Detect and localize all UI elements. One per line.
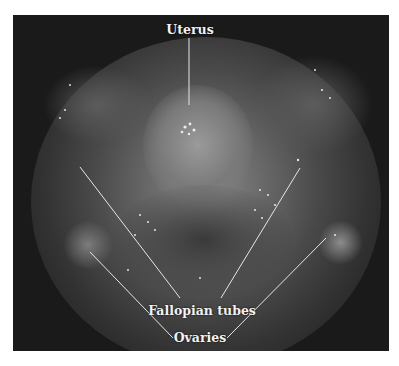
specular-highlights: [59, 69, 336, 279]
fallopian-left-leader-line: [80, 167, 180, 298]
fallopian-right-leader-line: [221, 168, 300, 298]
ovary-right-leader-line: [227, 238, 326, 338]
fallopian-tubes-label: Fallopian tubes: [148, 303, 256, 318]
ovaries-label: Ovaries: [174, 330, 227, 345]
uterus-label: Uterus: [166, 22, 213, 37]
ovary-left-leader-line: [90, 252, 173, 338]
